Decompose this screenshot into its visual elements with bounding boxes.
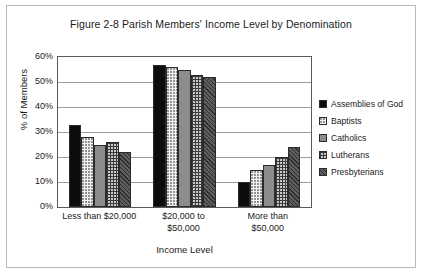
bar [275,157,288,207]
y-tick-label: 50% [35,76,53,86]
y-tick-label: 20% [35,151,53,161]
y-tick-label: 0% [40,201,53,211]
bar-group [58,57,142,207]
bar [250,170,263,208]
bar [166,67,179,207]
bar [288,147,301,207]
bar [178,70,191,208]
legend-swatch-icon [319,168,327,176]
bar [106,142,119,207]
legend-label: Assemblies of God [331,99,403,109]
bar-group [227,57,311,207]
chart-legend: Assemblies of GodBaptistsCatholicsLuther… [319,95,423,180]
y-tick-label: 60% [35,51,53,61]
x-tick-label-line: $50,000 [252,223,285,233]
bar [153,65,166,208]
legend-item-presbyterians[interactable]: Presbyterians [319,163,423,180]
x-tick-label: More than$50,000 [226,211,310,234]
legend-label: Baptists [331,116,362,126]
bar [191,75,204,208]
legend-item-baptists[interactable]: Baptists [319,112,423,129]
x-axis-title: Income Level [57,244,312,255]
plot-area [57,56,312,208]
y-axis-tick-labels: 0%10%20%30%40%50%60% [23,56,55,208]
legend-label: Catholics [331,133,366,143]
y-tick-label: 30% [35,126,53,136]
figure-frame: Figure 2-8 Parish Members' Income Level … [6,5,416,268]
y-tick-label: 10% [35,176,53,186]
x-tick-label: Less than $20,000 [57,211,141,223]
y-tick-label: 40% [35,101,53,111]
legend-swatch-icon [319,117,327,125]
bar [81,137,94,207]
bar [94,145,107,208]
x-tick-label-line: $50,000 [167,223,200,233]
legend-item-catholics[interactable]: Catholics [319,129,423,146]
x-axis-tick-labels: Less than $20,000$20,000 to$50,000More t… [57,211,312,243]
legend-swatch-icon [319,100,327,108]
x-tick-label-line: $20,000 to [162,211,205,221]
legend-item-lutherans[interactable]: Lutherans [319,146,423,163]
bar [263,165,276,208]
x-tick-label-line: Less than $20,000 [62,211,136,221]
chart-title: Figure 2-8 Parish Members' Income Level … [7,18,415,30]
legend-item-assemblies-of-god[interactable]: Assemblies of God [319,95,423,112]
bar [69,125,82,208]
bar [119,152,132,207]
bar [203,77,216,207]
legend-label: Presbyterians [331,167,384,177]
legend-swatch-icon [319,134,327,142]
bar-group [142,57,226,207]
legend-swatch-icon [319,151,327,159]
x-tick-label: $20,000 to$50,000 [141,211,225,234]
legend-label: Lutherans [331,150,369,160]
bar [238,182,251,207]
x-tick-label-line: More than [248,211,289,221]
